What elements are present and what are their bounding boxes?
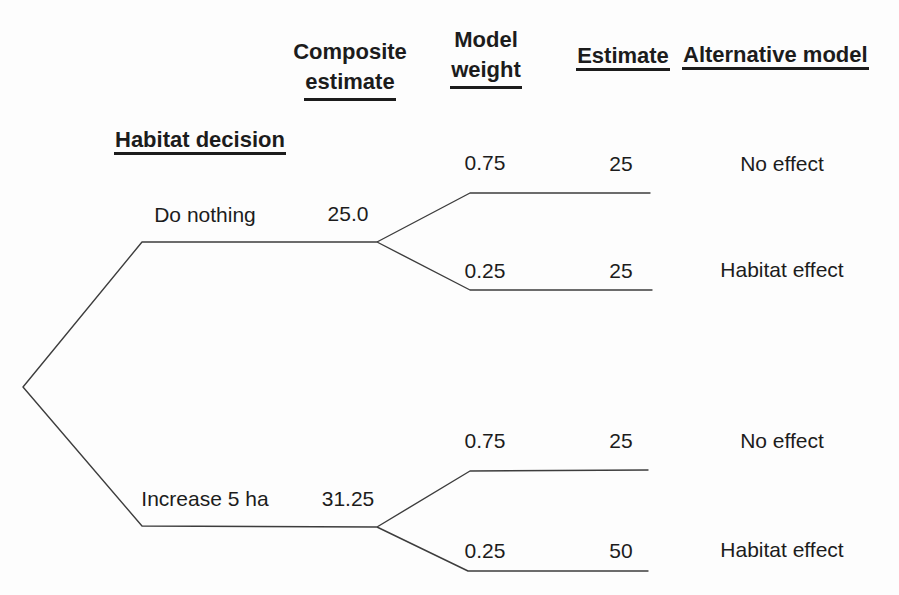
estimate-value: 25 (571, 430, 671, 452)
model-weight-value: 0.25 (435, 540, 535, 562)
header-alternative-model: Alternative model (682, 44, 869, 70)
composite-estimate-value-do-nothing: 25.0 (298, 203, 398, 225)
model-weight-value: 0.75 (435, 430, 535, 452)
decision-tree-figure: Composite estimate Model weight Estimate… (0, 0, 899, 595)
header-composite-estimate-line1: Composite (280, 37, 420, 67)
header-composite-estimate-line2: estimate (304, 67, 395, 101)
header-habitat-decision: Habitat decision (114, 129, 286, 155)
estimate-value: 50 (571, 540, 671, 562)
model-weight-value: 0.25 (435, 260, 535, 282)
alternative-model-label: Habitat effect (682, 259, 882, 281)
header-model-weight: Model weight (426, 25, 546, 89)
alternative-model-label: No effect (682, 430, 882, 452)
model-weight-value: 0.75 (435, 152, 535, 174)
decision-label-do-nothing: Do nothing (105, 204, 305, 226)
header-model-weight-line1: Model (426, 25, 546, 55)
estimate-value: 25 (571, 153, 671, 175)
alternative-model-label: No effect (682, 153, 882, 175)
header-model-weight-line2: weight (450, 55, 522, 89)
header-composite-estimate: Composite estimate (280, 37, 420, 101)
alternative-model-label: Habitat effect (682, 539, 882, 561)
estimate-value: 25 (571, 260, 671, 282)
composite-estimate-value-increase-5-ha: 31.25 (298, 488, 398, 510)
header-estimate: Estimate (571, 45, 675, 71)
decision-label-increase-5-ha: Increase 5 ha (105, 488, 305, 510)
